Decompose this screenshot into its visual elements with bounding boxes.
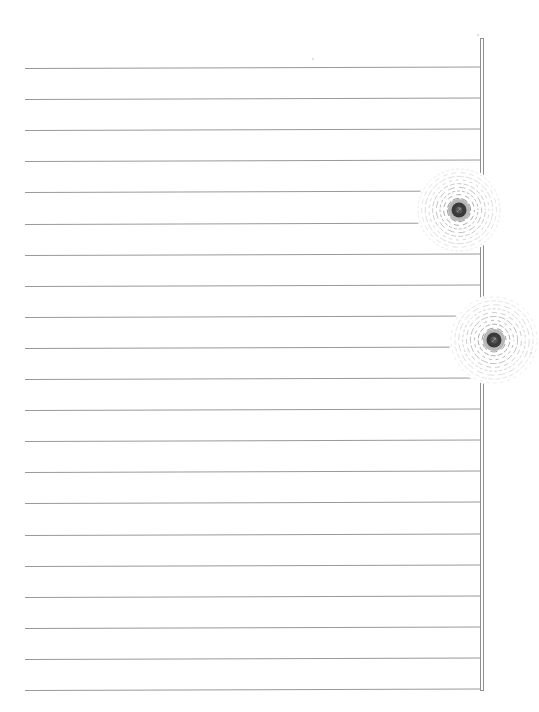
rule-line bbox=[25, 440, 481, 443]
rule-line bbox=[25, 595, 481, 598]
rule-line bbox=[25, 626, 481, 629]
rule-line bbox=[25, 67, 481, 69]
rule-line bbox=[25, 160, 481, 162]
rule-line bbox=[25, 346, 481, 349]
rule-line bbox=[25, 284, 481, 287]
rule-line bbox=[25, 409, 481, 412]
rule-line bbox=[25, 98, 481, 100]
rule-line bbox=[25, 471, 481, 474]
paper-speck bbox=[312, 58, 314, 60]
ring-mark-lower-icon bbox=[449, 295, 539, 385]
rule-line bbox=[25, 533, 481, 536]
rule-line bbox=[25, 253, 481, 255]
rule-line bbox=[25, 689, 481, 692]
rule-line bbox=[25, 191, 481, 193]
ring-mark-upper-icon bbox=[416, 167, 502, 253]
rule-line bbox=[25, 129, 481, 131]
rule-line bbox=[25, 564, 481, 567]
rule-line bbox=[25, 502, 481, 505]
rule-line bbox=[25, 378, 481, 381]
rule-line bbox=[25, 222, 481, 224]
paper-speck bbox=[477, 34, 479, 36]
rule-line bbox=[25, 315, 481, 318]
rule-line bbox=[25, 657, 481, 660]
paper-speck bbox=[530, 352, 532, 354]
